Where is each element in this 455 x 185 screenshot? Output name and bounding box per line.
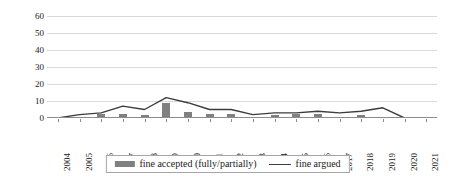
x-axis-tick-mark xyxy=(383,119,384,122)
x-axis-tick-mark xyxy=(166,119,167,122)
x-axis-tick-mark xyxy=(361,119,362,122)
x-axis-tick-mark xyxy=(210,119,211,122)
chart-legend: fine accepted (fully/partially) fine arg… xyxy=(105,155,349,173)
line-series-fine-argued xyxy=(47,16,437,118)
x-axis-tick-mark xyxy=(188,119,189,122)
line-path-svg xyxy=(47,16,437,118)
y-axis-tick-label: 50 xyxy=(0,29,44,38)
x-axis-tick-label-2021: 2021 xyxy=(430,153,440,185)
chart-container: 0102030405060 20042005200620072008200920… xyxy=(0,0,455,185)
x-axis-tick-mark xyxy=(80,119,81,122)
y-axis-tick-label: 0 xyxy=(0,114,44,123)
legend-item-fine-accepted: fine accepted (fully/partially) xyxy=(114,158,256,170)
x-axis-tick-label-2005: 2005 xyxy=(84,153,94,185)
fine-argued-line xyxy=(58,98,426,118)
x-axis: 2004200520062007200820092010201120122013… xyxy=(47,119,437,155)
legend-label-fine-accepted: fine accepted (fully/partially) xyxy=(139,158,256,170)
y-axis-tick-label: 40 xyxy=(0,46,44,55)
x-axis-tick-mark xyxy=(340,119,341,122)
x-axis-tick-mark xyxy=(296,119,297,122)
x-axis-tick-label-2018: 2018 xyxy=(365,153,375,185)
y-axis-tick-label: 60 xyxy=(0,12,44,21)
line-swatch-icon xyxy=(269,164,291,165)
x-axis-tick-mark xyxy=(318,119,319,122)
legend-item-fine-argued: fine argued xyxy=(269,158,341,170)
x-axis-tick-mark xyxy=(426,119,427,122)
y-axis-tick-label: 20 xyxy=(0,80,44,89)
x-axis-tick-mark xyxy=(253,119,254,122)
x-axis-tick-label-2019: 2019 xyxy=(387,153,397,185)
plot-area xyxy=(47,16,437,118)
x-axis-baseline xyxy=(47,117,437,118)
x-axis-tick-mark xyxy=(101,119,102,122)
x-axis-tick-mark xyxy=(231,119,232,122)
x-axis-tick-mark xyxy=(275,119,276,122)
y-axis-tick-label: 10 xyxy=(0,97,44,106)
y-axis: 0102030405060 xyxy=(0,16,44,118)
x-axis-tick-mark xyxy=(58,119,59,122)
x-axis-tick-mark xyxy=(145,119,146,122)
legend-label-fine-argued: fine argued xyxy=(296,158,341,170)
x-axis-tick-mark xyxy=(405,119,406,122)
x-axis-tick-label-2004: 2004 xyxy=(62,153,72,185)
bar-swatch-icon xyxy=(114,161,134,167)
x-axis-tick-label-2020: 2020 xyxy=(409,153,419,185)
y-axis-tick-label: 30 xyxy=(0,63,44,72)
x-axis-tick-mark xyxy=(123,119,124,122)
